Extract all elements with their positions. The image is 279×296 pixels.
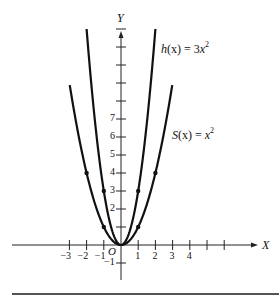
- y-axis-arrow-icon: [119, 31, 124, 38]
- y-tick-label: 4: [110, 167, 115, 177]
- x-axis-arrow-icon: [251, 243, 258, 248]
- data-point: [136, 189, 140, 193]
- data-point: [102, 189, 106, 193]
- s-fn-power: 2: [210, 126, 214, 135]
- y-axis-label: Y: [117, 12, 124, 24]
- x-tick-label: −3: [60, 251, 71, 261]
- bottom-rule: [12, 293, 279, 295]
- y-tick-label: 5: [110, 149, 115, 159]
- h-function-label: h(x) = 3x2: [161, 41, 209, 55]
- data-point: [136, 225, 140, 229]
- x-tick-label: 2: [152, 251, 157, 261]
- h-fn-arg: (x) = 3: [167, 42, 200, 56]
- x-tick-label: 1: [135, 251, 140, 261]
- x-tick-label: 3: [170, 251, 175, 261]
- x-tick-label: 4: [187, 251, 192, 261]
- data-point: [84, 171, 88, 175]
- x-tick-label: −2: [78, 251, 89, 261]
- s-fn-arg: (x) =: [178, 128, 205, 142]
- data-point: [102, 225, 106, 229]
- axes: [12, 29, 258, 280]
- x-axis-label: X: [262, 239, 269, 251]
- h-fn-power: 2: [205, 40, 209, 49]
- y-tick-label: 6: [110, 131, 115, 141]
- y-tick-label: −1: [104, 257, 115, 267]
- y-tick-label: 2: [110, 203, 115, 213]
- data-point: [153, 171, 157, 175]
- y-tick-label: 3: [110, 185, 115, 195]
- s-function-label: S(x) = x2: [172, 127, 214, 141]
- y-tick-label: 7: [110, 113, 115, 123]
